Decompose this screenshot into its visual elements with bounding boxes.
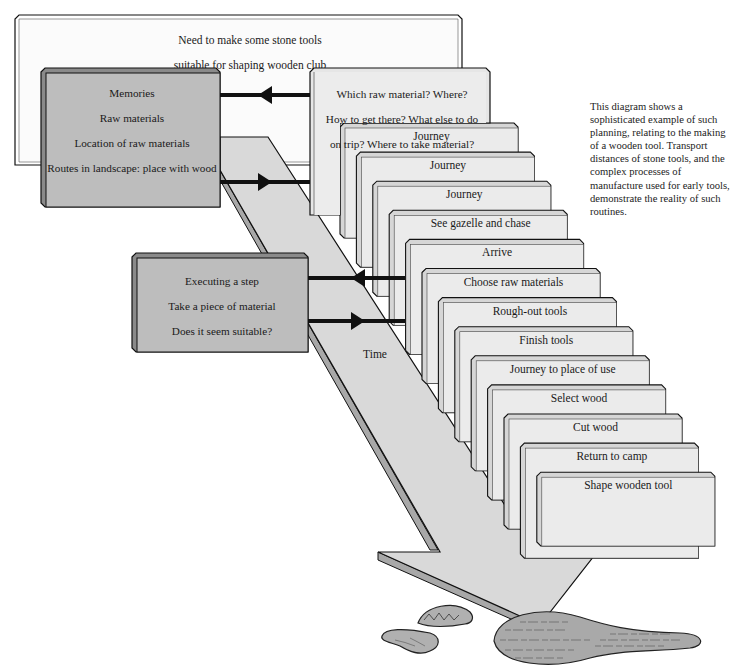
stone-tool-rough-icon xyxy=(418,605,472,626)
wooden-club-icon xyxy=(494,612,701,664)
stone-flake-icon xyxy=(382,630,439,654)
